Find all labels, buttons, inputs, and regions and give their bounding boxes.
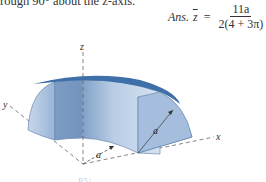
inner-shade <box>55 79 82 140</box>
left-end-face <box>28 82 55 140</box>
right-end-face-fill <box>138 92 192 153</box>
y-axis-label: y <box>2 99 8 110</box>
arrowhead-icon <box>109 146 114 150</box>
outer-radius-label: a <box>153 125 158 136</box>
x-axis-label: x <box>215 131 221 142</box>
figure-caption: P5/… <box>78 176 101 182</box>
z-axis-label: z <box>79 41 84 52</box>
solid-figure: z y x a a <box>0 0 266 182</box>
inner-radius-label: a <box>96 149 101 160</box>
